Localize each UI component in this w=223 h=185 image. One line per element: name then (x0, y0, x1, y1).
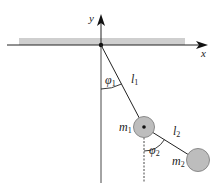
m1-label: m1 (119, 120, 132, 135)
phi2-label: φ2 (149, 143, 160, 158)
l2-label: l2 (173, 124, 180, 139)
y-axis-label: y (88, 12, 94, 24)
phi1-label: φ1 (105, 73, 116, 88)
l1-label: l1 (131, 72, 138, 87)
m2-label: m2 (172, 154, 185, 169)
x-axis-label: x (200, 47, 206, 59)
double-pendulum-diagram: x y φ1 l1 m1 φ2 l2 m2 (0, 0, 223, 185)
mass-m2 (187, 149, 210, 172)
m1-center-dot (142, 125, 146, 129)
